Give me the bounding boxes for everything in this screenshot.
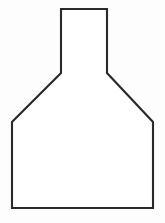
drawing-canvas [0, 0, 165, 223]
flask-outline-shape [12, 9, 153, 208]
shape-svg [0, 0, 165, 223]
